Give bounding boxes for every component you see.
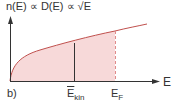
density-of-states-plot <box>0 0 178 109</box>
y-axis-arrow-icon <box>8 16 13 24</box>
fermi-energy-subscript: F <box>118 93 123 102</box>
plot-title: n(E) ∝ D(E) ∝ √E <box>6 1 91 12</box>
fermi-energy-label: EF <box>111 88 123 102</box>
x-axis-arrow-icon <box>152 79 160 84</box>
x-axis-label: E <box>163 76 171 88</box>
mean-kinetic-energy-label: Ekin <box>67 88 85 102</box>
mean-energy-subscript: kin <box>74 93 84 102</box>
panel-label: b) <box>7 88 17 99</box>
